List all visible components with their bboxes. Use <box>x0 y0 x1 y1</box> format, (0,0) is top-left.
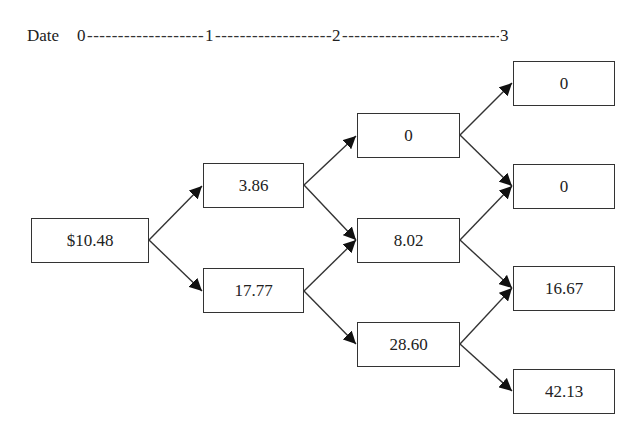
edge-ud-udd <box>460 240 512 288</box>
edge-d-dd <box>304 291 356 344</box>
edge-ud-uud <box>460 186 512 240</box>
node-date2-dd: 28.60 <box>357 322 460 367</box>
edge-dd-udd <box>460 288 512 344</box>
edge-uu-uud <box>460 135 512 186</box>
edge-u-ud <box>304 185 356 240</box>
node-date3-ddd: 42.13 <box>513 369 615 414</box>
edge-root-up <box>149 186 202 240</box>
edge-dd-ddd <box>460 344 512 391</box>
edge-uu-uuu <box>460 83 512 135</box>
node-date2-ud: 8.02 <box>357 218 460 263</box>
edge-u-uu <box>304 136 356 185</box>
node-date2-uu: 0 <box>357 113 460 158</box>
node-date3-udd: 16.67 <box>513 266 615 311</box>
node-date3-uud: 0 <box>513 164 615 209</box>
edge-d-ud <box>304 240 356 291</box>
edge-root-down <box>149 240 202 291</box>
node-date1-down: 17.77 <box>203 268 304 313</box>
node-root: $10.48 <box>31 218 149 263</box>
node-date1-up: 3.86 <box>203 163 304 208</box>
node-date3-uuu: 0 <box>513 61 615 106</box>
